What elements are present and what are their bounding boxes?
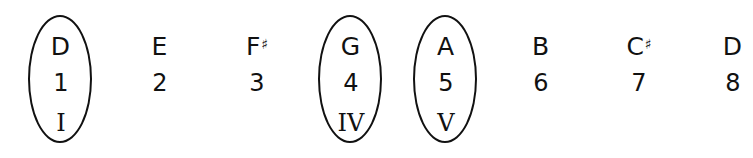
scale-degree-2: E 2: [120, 0, 200, 158]
scale-degree-1: D 1 I: [21, 0, 101, 158]
note-name: A: [406, 32, 486, 62]
roman-numeral: IV: [311, 108, 391, 138]
note-name: C♯: [599, 32, 679, 62]
degree-number: 5: [406, 68, 486, 98]
scale-degree-8: D 8: [693, 0, 753, 158]
degree-number: 2: [120, 68, 200, 98]
degree-number: 3: [217, 68, 297, 98]
note-name: G: [311, 32, 391, 62]
degree-number: 6: [501, 68, 581, 98]
degree-number: 1: [21, 68, 101, 98]
note-name: E: [120, 32, 200, 62]
roman-numeral: V: [406, 108, 486, 138]
note-name: D: [21, 32, 101, 62]
scale-degree-6: B 6: [501, 0, 581, 158]
scale-degree-4: G 4 IV: [311, 0, 391, 158]
degree-number: 8: [693, 68, 753, 98]
scale-degree-7: C♯ 7: [599, 0, 679, 158]
note-name: F♯: [217, 32, 297, 62]
note-name: B: [501, 32, 581, 62]
scale-degree-5: A 5 V: [406, 0, 486, 158]
roman-numeral: I: [21, 108, 101, 138]
degree-number: 7: [599, 68, 679, 98]
note-name: D: [693, 32, 753, 62]
scale-degree-3: F♯ 3: [217, 0, 297, 158]
degree-number: 4: [311, 68, 391, 98]
